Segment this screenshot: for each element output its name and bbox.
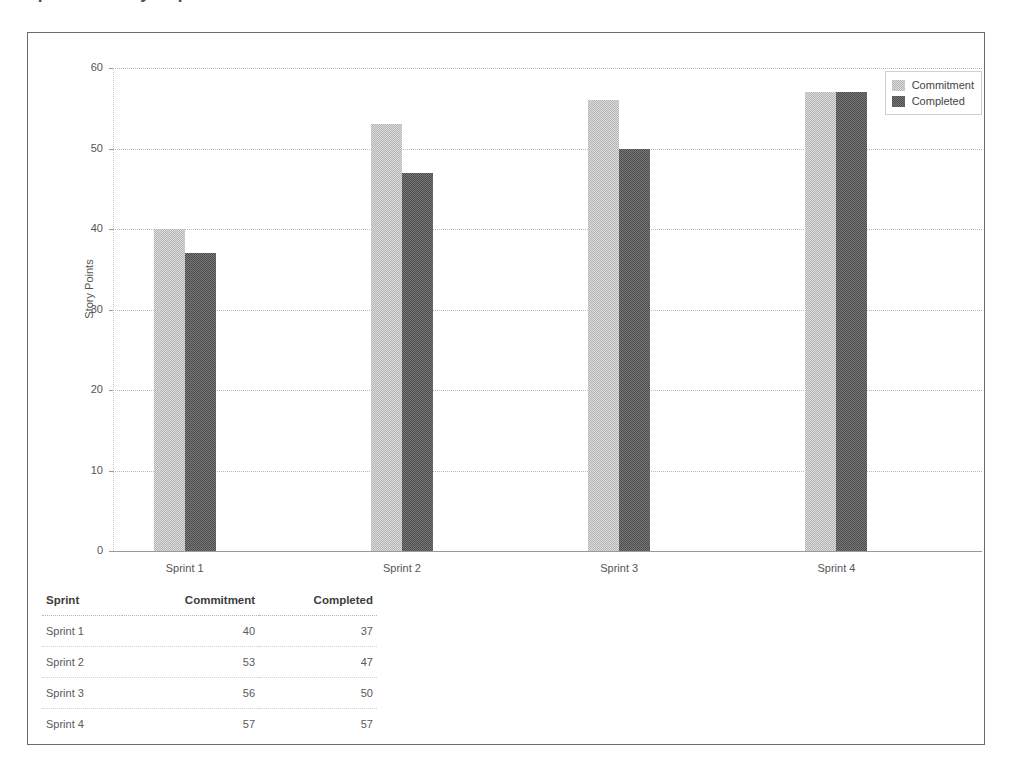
cell-commitment: 40 [122, 616, 259, 647]
cell-commitment: 57 [122, 709, 259, 740]
table-header-row: Sprint Commitment Completed [42, 588, 377, 616]
clipped-report-title: Sprint Velocity Report [26, 0, 526, 6]
y-tick-label: 10 [63, 465, 103, 476]
bar-commitment-sprint-1 [154, 229, 185, 551]
cell-sprint-name: Sprint 3 [42, 678, 122, 709]
legend-item: Completed [892, 93, 974, 109]
bar-commitment-sprint-3 [588, 100, 619, 551]
x-tick-label: Sprint 1 [115, 562, 255, 574]
cell-sprint-name: Sprint 1 [42, 616, 122, 647]
bar-completed-sprint-4 [836, 92, 867, 551]
legend-swatch-icon [892, 96, 905, 107]
table-header-completed: Completed [259, 588, 377, 616]
legend-label: Commitment [912, 79, 974, 91]
x-tick-label: Sprint 3 [549, 562, 689, 574]
table-body: Sprint 14037Sprint 25347Sprint 35650Spri… [42, 616, 377, 740]
cell-sprint-name: Sprint 4 [42, 709, 122, 740]
y-tick-label: 20 [63, 384, 103, 395]
plot-area [113, 68, 982, 551]
cell-completed: 47 [259, 647, 377, 678]
bar-completed-sprint-3 [619, 149, 650, 552]
cell-completed: 50 [259, 678, 377, 709]
table-header-sprint: Sprint [42, 588, 122, 616]
table-row: Sprint 35650 [42, 678, 377, 709]
bar-commitment-sprint-4 [805, 92, 836, 551]
legend-item: Commitment [892, 77, 974, 93]
y-tick-label: 30 [63, 304, 103, 315]
table-header-commitment: Commitment [122, 588, 259, 616]
legend-label: Completed [912, 95, 965, 107]
table-row: Sprint 14037 [42, 616, 377, 647]
y-tick-label: 40 [63, 223, 103, 234]
velocity-data-table: Sprint Commitment Completed Sprint 14037… [42, 588, 377, 739]
cell-commitment: 56 [122, 678, 259, 709]
velocity-bar-chart: Story Points 0102030405060 Sprint 1Sprin… [28, 33, 984, 578]
y-axis-title: Story Points [83, 219, 95, 359]
table-row: Sprint 25347 [42, 647, 377, 678]
y-tick-label: 0 [63, 545, 103, 556]
x-tick-label: Sprint 2 [332, 562, 472, 574]
table-row: Sprint 45757 [42, 709, 377, 740]
bar-completed-sprint-1 [185, 253, 216, 551]
cell-commitment: 53 [122, 647, 259, 678]
bar-commitment-sprint-2 [371, 124, 402, 551]
cell-sprint-name: Sprint 2 [42, 647, 122, 678]
chart-legend: CommitmentCompleted [885, 71, 982, 115]
cell-completed: 37 [259, 616, 377, 647]
legend-swatch-icon [892, 80, 905, 91]
y-tick-label: 60 [63, 62, 103, 73]
report-card: Story Points 0102030405060 Sprint 1Sprin… [27, 32, 985, 745]
x-axis-line [113, 551, 982, 552]
x-tick-label: Sprint 4 [766, 562, 906, 574]
bar-completed-sprint-2 [402, 173, 433, 551]
cell-completed: 57 [259, 709, 377, 740]
y-tick-label: 50 [63, 143, 103, 154]
